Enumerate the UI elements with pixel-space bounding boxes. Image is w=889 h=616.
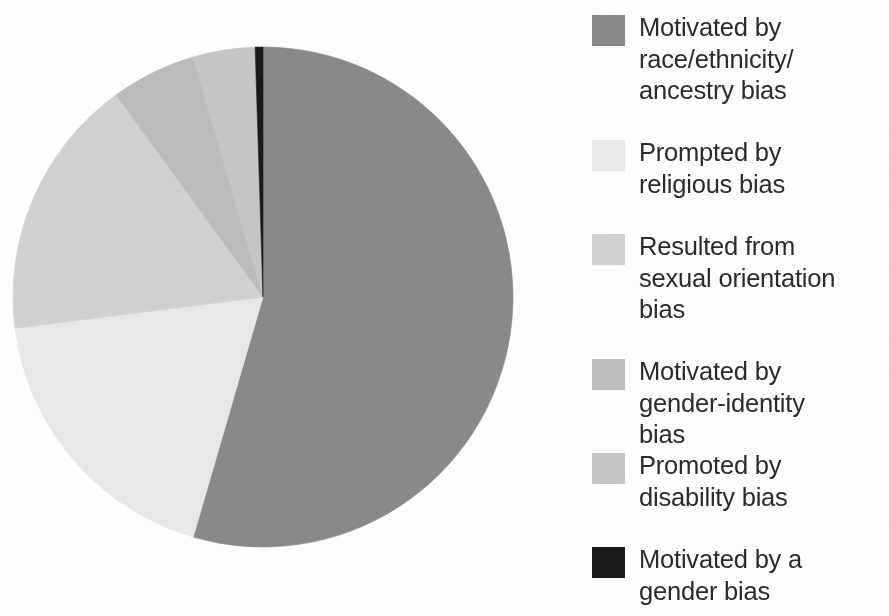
pie-chart-figure: Motivated by race/ethnicity/ ancestry bi…: [0, 0, 889, 616]
pie-svg: [0, 0, 570, 616]
legend-swatch-gender: [592, 547, 625, 578]
pie-slices-group: [13, 47, 513, 547]
legend-label-sexual-orientation: Resulted from sexual orientation bias: [639, 231, 835, 326]
legend-swatch-gender-identity: [592, 359, 625, 390]
legend-swatch-race-ethnicity-ancestry: [592, 15, 625, 46]
pie-plot-area: [0, 0, 570, 616]
legend-item-0[interactable]: Motivated by race/ethnicity/ ancestry bi…: [592, 12, 793, 107]
legend-label-disability: Promoted by disability bias: [639, 450, 788, 513]
legend-item-1[interactable]: Prompted by religious bias: [592, 137, 785, 200]
legend-swatch-disability: [592, 453, 625, 484]
legend-swatch-religious: [592, 140, 625, 171]
chart-legend: Motivated by race/ethnicity/ ancestry bi…: [592, 0, 889, 616]
legend-item-3[interactable]: Motivated by gender-identity bias: [592, 356, 805, 451]
legend-item-2[interactable]: Resulted from sexual orientation bias: [592, 231, 835, 326]
legend-label-gender-identity: Motivated by gender-identity bias: [639, 356, 805, 451]
legend-item-5[interactable]: Motivated by a gender bias: [592, 544, 802, 607]
legend-item-4[interactable]: Promoted by disability bias: [592, 450, 788, 513]
legend-label-gender: Motivated by a gender bias: [639, 544, 802, 607]
legend-swatch-sexual-orientation: [592, 234, 625, 265]
legend-label-race-ethnicity-ancestry: Motivated by race/ethnicity/ ancestry bi…: [639, 12, 793, 107]
legend-label-religious: Prompted by religious bias: [639, 137, 785, 200]
